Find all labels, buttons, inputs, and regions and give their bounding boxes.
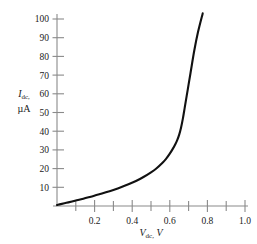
y-tick-label: 90 <box>40 33 50 43</box>
y-axis-label-subscript: dc, <box>21 93 29 101</box>
x-axis-tick-labels: 0.20.40.60.81.0 <box>89 216 252 226</box>
iv-curve <box>57 13 203 205</box>
y-tick-label: 80 <box>40 52 50 62</box>
y-tick-label: 100 <box>35 14 50 24</box>
y-axis-label-line1: Idc, <box>2 88 46 103</box>
x-tick-label: 0.6 <box>164 216 176 226</box>
y-tick-label: 40 <box>40 127 50 137</box>
y-tick-label: 70 <box>40 71 50 81</box>
y-axis-label-line2: µA <box>2 103 46 114</box>
y-tick-label: 20 <box>40 164 50 174</box>
x-axis-label: Vdc, V <box>57 227 245 240</box>
x-axis-label-unit: V <box>156 227 162 238</box>
y-tick-label: 30 <box>40 145 50 155</box>
x-axis-label-subscript: dc, <box>146 232 154 240</box>
x-tick-label: 0.2 <box>89 216 101 226</box>
diode-iv-chart-figure: 102030405060708090100 0.20.40.60.81.0 Id… <box>0 0 257 244</box>
y-axis-label: Idc, µA <box>2 88 46 114</box>
chart-plot-area: 102030405060708090100 0.20.40.60.81.0 <box>0 0 257 244</box>
x-tick-label: 0.4 <box>126 216 138 226</box>
x-tick-label: 0.8 <box>201 216 213 226</box>
x-tick-label: 1.0 <box>239 216 251 226</box>
y-axis-ticks <box>53 19 65 187</box>
y-tick-label: 10 <box>40 183 50 193</box>
